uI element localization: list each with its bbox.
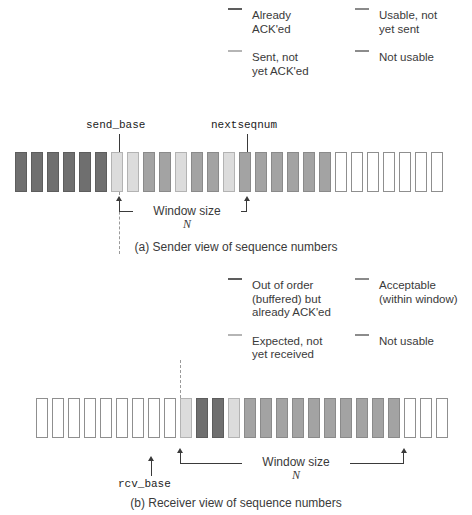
receiver-window-label: Window size <box>262 455 329 469</box>
sender-seq-cell <box>431 152 443 192</box>
sender-legend: Already ACK'ed Usable, not yet sent Sent… <box>228 8 464 78</box>
legend-item-out-of-order-buffered: Out of order (buffered) but already ACK'… <box>228 278 337 320</box>
sender-seq-cell <box>15 152 27 192</box>
sender-seq-cell <box>223 152 235 192</box>
receiver-seq-cell <box>404 398 416 438</box>
sender-seq-cell <box>31 152 43 192</box>
receiver-window-caption: Window size N <box>242 456 350 482</box>
legend-item-usable-not-sent: Usable, not yet sent <box>355 8 464 36</box>
sender-seq-cell <box>367 152 379 192</box>
pointer-label-send-base: send_base <box>86 119 145 131</box>
legend-item-not-usable-receiver: Not usable <box>355 334 464 362</box>
legend-label-acceptable: Acceptable (within window) <box>379 278 458 306</box>
receiver-seq-cell <box>36 398 48 438</box>
receiver-seq-cell <box>388 398 400 438</box>
receiver-seq-cell <box>260 398 272 438</box>
receiver-seq-cell <box>180 398 192 438</box>
sender-window-arm-left <box>119 200 120 212</box>
receiver-seq-cell <box>436 398 448 438</box>
sender-seq-cell <box>207 152 219 192</box>
sender-window-arrowhead-left <box>116 196 122 201</box>
sender-seq-cell <box>335 152 347 192</box>
sender-sequence-bar <box>15 152 447 192</box>
legend-item-not-usable-sender: Not usable <box>355 50 464 78</box>
legend-label-already-acked: Already ACK'ed <box>252 8 291 36</box>
receiver-seq-cell <box>244 398 256 438</box>
sender-seq-cell <box>319 152 331 192</box>
receiver-window-arrowhead-left <box>177 448 183 453</box>
legend-item-already-acked: Already ACK'ed <box>228 8 337 36</box>
sender-seq-cell <box>415 152 427 192</box>
pointer-tick-nextseqnum <box>247 134 248 152</box>
legend-label-sent-not-acked: Sent, not yet ACK'ed <box>252 50 309 78</box>
legend-label-not-usable-sender: Not usable <box>379 50 434 65</box>
sender-seq-cell <box>303 152 315 192</box>
receiver-seq-cell <box>164 398 176 438</box>
legend-item-acceptable: Acceptable (within window) <box>355 278 464 320</box>
sender-seq-cell <box>159 152 171 192</box>
receiver-seq-cell <box>308 398 320 438</box>
receiver-seq-cell <box>132 398 144 438</box>
sender-seq-cell <box>399 152 411 192</box>
receiver-seq-cell <box>228 398 240 438</box>
legend-label-usable-not-sent: Usable, not yet sent <box>379 8 437 36</box>
rcv-base-tick <box>151 460 152 476</box>
receiver-seq-cell <box>196 398 208 438</box>
receiver-window-arm-right <box>403 452 404 464</box>
legend-swatch-not-usable-sender <box>355 50 369 52</box>
receiver-legend: Out of order (buffered) but already ACK'… <box>228 278 464 362</box>
pointer-label-nextseqnum: nextseqnum <box>211 119 277 131</box>
receiver-seq-cell <box>420 398 432 438</box>
receiver-window-arrowhead-right <box>401 448 407 453</box>
sender-seq-cell <box>79 152 91 192</box>
figure-sliding-window: Already ACK'ed Usable, not yet sent Sent… <box>0 0 472 515</box>
sender-seq-cell <box>47 152 59 192</box>
legend-label-out-of-order-buffered: Out of order (buffered) but already ACK'… <box>252 278 331 320</box>
sender-window-arm-right <box>246 200 247 212</box>
legend-swatch-not-usable-receiver <box>355 334 369 336</box>
receiver-seq-cell <box>324 398 336 438</box>
sender-window-arrowhead-right <box>244 196 250 201</box>
receiver-seq-cell <box>100 398 112 438</box>
sender-seq-cell <box>239 152 251 192</box>
receiver-window-n: N <box>246 469 346 482</box>
legend-label-expected-not-received: Expected, not yet received <box>252 334 322 362</box>
sender-seq-cell <box>255 152 267 192</box>
sender-seq-cell <box>127 152 139 192</box>
receiver-seq-cell <box>276 398 288 438</box>
receiver-seq-cell <box>68 398 80 438</box>
receiver-seq-cell <box>116 398 128 438</box>
pointer-label-rcv-base: rcv_base <box>118 478 171 490</box>
sender-seq-cell <box>175 152 187 192</box>
receiver-seq-cell <box>52 398 64 438</box>
legend-swatch-usable-not-sent <box>355 8 369 10</box>
legend-swatch-sent-not-acked <box>228 50 242 52</box>
sender-seq-cell <box>63 152 75 192</box>
receiver-caption: (b) Receiver view of sequence numbers <box>0 496 472 510</box>
legend-swatch-already-acked <box>228 8 242 10</box>
rcv-base-arrowhead <box>148 456 154 461</box>
sender-seq-cell <box>95 152 107 192</box>
sender-window-caption: Window size N <box>133 205 241 231</box>
receiver-sequence-bar <box>36 398 452 438</box>
receiver-seq-cell <box>212 398 224 438</box>
legend-swatch-acceptable <box>355 278 369 280</box>
legend-swatch-expected-not-received <box>228 334 242 336</box>
sender-seq-cell <box>383 152 395 192</box>
sender-seq-cell <box>287 152 299 192</box>
receiver-seq-cell <box>148 398 160 438</box>
legend-label-not-usable-receiver: Not usable <box>379 334 434 349</box>
sender-caption: (a) Sender view of sequence numbers <box>0 240 472 254</box>
legend-swatch-out-of-order-buffered <box>228 278 242 280</box>
pointer-tick-send-base <box>119 134 120 152</box>
sender-seq-cell <box>111 152 123 192</box>
receiver-seq-cell <box>356 398 368 438</box>
sender-window-n: N <box>137 218 237 231</box>
legend-item-expected-not-received: Expected, not yet received <box>228 334 337 362</box>
rcv-base-guide-line <box>180 360 181 398</box>
sender-seq-cell <box>351 152 363 192</box>
sender-seq-cell <box>143 152 155 192</box>
receiver-window-arm-left <box>180 452 181 464</box>
legend-item-sent-not-acked: Sent, not yet ACK'ed <box>228 50 337 78</box>
sender-window-label: Window size <box>153 204 220 218</box>
